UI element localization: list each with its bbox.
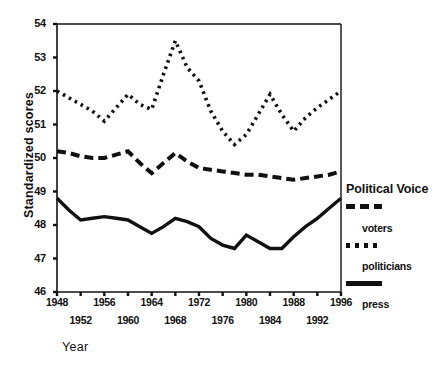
series-line-voters	[57, 41, 341, 145]
legend-swatch-voters	[346, 204, 382, 209]
y-axis-tick-label: 54	[24, 17, 46, 29]
legend-label-press: press	[362, 298, 389, 310]
x-axis-tick-label: 1976	[203, 314, 243, 326]
x-axis-tick-label: 1964	[132, 296, 172, 308]
legend-label-voters: voters	[362, 222, 392, 234]
legend-swatch-politicians	[346, 243, 382, 248]
legend-swatch-press	[346, 281, 382, 286]
series-line-press	[57, 198, 341, 248]
y-axis-title: Standardized scores	[22, 60, 36, 250]
x-axis-tick-label: 1988	[274, 296, 314, 308]
y-axis-tick-label: 47	[24, 252, 46, 264]
x-axis-tick-label: 1968	[155, 314, 195, 326]
x-axis-tick-label: 1952	[61, 314, 101, 326]
chart-figure: 464748495051525354 194819561964197219801…	[0, 0, 439, 377]
legend-label-politicians: politicians	[362, 260, 412, 272]
x-axis-tick-label: 1984	[250, 314, 290, 326]
legend-title: Political Voice	[346, 182, 428, 196]
x-axis-tick-label: 1980	[226, 296, 266, 308]
x-axis-tick-label: 1956	[84, 296, 124, 308]
x-axis-tick-label: 1992	[297, 314, 337, 326]
x-axis-title: Year	[62, 340, 88, 354]
series-line-politicians	[57, 151, 341, 179]
data-series-layer	[57, 41, 341, 249]
x-axis-tick-label: 1948	[37, 296, 77, 308]
x-axis-tick-label: 1996	[321, 296, 361, 308]
x-axis-tick-label: 1960	[108, 314, 148, 326]
x-axis-tick-label: 1972	[179, 296, 219, 308]
